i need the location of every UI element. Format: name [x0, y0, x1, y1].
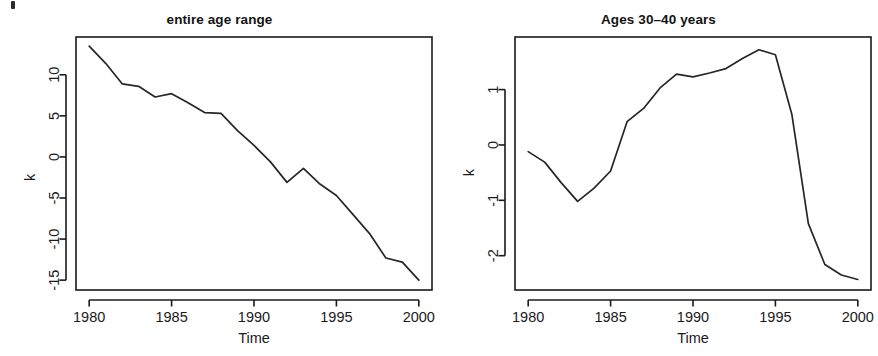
y-tick-label-10: 10: [46, 67, 62, 83]
x-tick-label-1990: 1990: [238, 309, 270, 325]
x-axis-label: Time: [238, 330, 270, 346]
plot-frame: [76, 37, 432, 290]
panel-entire-age-range: entire age range 19801985199019952000Tim…: [0, 0, 439, 356]
x-axis-label: Time: [677, 330, 709, 346]
figure-container: entire age range 19801985199019952000Tim…: [0, 0, 878, 356]
y-tick-label-0: 0: [46, 153, 62, 161]
panel-ages-30-40: Ages 30–40 years 19801985199019952000Tim…: [439, 0, 878, 356]
y-tick-label--15: -15: [46, 270, 62, 291]
data-series-line-ages-30-40: [528, 50, 858, 280]
x-tick-label-1990: 1990: [677, 309, 709, 325]
y-axis-label: k: [22, 173, 38, 181]
x-tick-label-2000: 2000: [842, 309, 874, 325]
y-tick-label--10: -10: [46, 229, 62, 250]
x-tick-label-1980: 1980: [512, 309, 544, 325]
x-tick-label-1985: 1985: [155, 309, 187, 325]
plot-area-left: 19801985199019952000Time1050-5-10-15k: [0, 0, 439, 356]
y-tick-label--1: -1: [485, 194, 501, 207]
plot-area-right: 19801985199019952000Time10-1-2k: [439, 0, 878, 356]
x-tick-label-1985: 1985: [594, 309, 626, 325]
y-tick-label--2: -2: [485, 249, 501, 262]
y-tick-label-5: 5: [46, 112, 62, 120]
y-tick-label-1: 1: [485, 86, 501, 94]
x-tick-label-1980: 1980: [73, 309, 105, 325]
y-tick-label-0: 0: [485, 141, 501, 149]
x-tick-label-2000: 2000: [403, 309, 435, 325]
y-axis-label: k: [461, 168, 477, 176]
y-tick-label--5: -5: [46, 192, 62, 205]
data-series-line-entire-age-range: [89, 46, 419, 280]
x-tick-label-1995: 1995: [320, 309, 352, 325]
x-tick-label-1995: 1995: [759, 309, 791, 325]
plot-frame: [515, 37, 871, 290]
